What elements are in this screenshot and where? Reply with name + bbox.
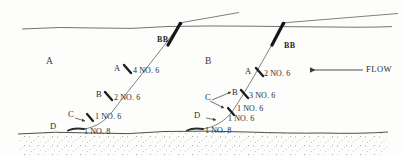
right-bars-a-label: 2 NO. 6	[264, 70, 290, 78]
left-node-a-label: A	[114, 64, 120, 73]
diagram-canvas: A BB A 4 NO. 6 B 2 NO. 6 C 1 NO. 6 D 1 N…	[0, 0, 404, 155]
left-node-d-label: D	[50, 122, 56, 131]
left-bars-b-label: 2 NO. 6	[114, 94, 140, 102]
tether-lines	[182, 13, 398, 23]
water-surface-line	[22, 26, 392, 29]
zone-label-b: B	[205, 57, 211, 67]
seabed-line	[18, 131, 388, 155]
right-node-b-label: B	[232, 88, 238, 97]
left-bb-label: BB	[157, 36, 168, 44]
right-node-d-label: D	[194, 111, 200, 120]
right-node-c-label: C	[205, 93, 211, 102]
left-node-b-label: B	[96, 90, 102, 99]
left-bars-c-label: 1 NO. 6	[95, 113, 121, 121]
left-bars-a-label: 4 NO. 6	[133, 67, 159, 75]
right-node-a-label: A	[245, 67, 251, 76]
right-bb-label: BB	[284, 42, 295, 50]
right-bars-c1-label: 1 NO. 6	[237, 105, 263, 113]
right-bars-c2-label: 1 NO. 6	[228, 115, 254, 123]
left-node-c-label: C	[68, 110, 74, 119]
zone-label-a: A	[46, 57, 53, 67]
flow-label: FLOW	[366, 65, 392, 74]
left-bars-d-label: 1 NO. 8	[84, 128, 110, 136]
diagram-vector-layer	[0, 0, 404, 155]
right-bars-d-label: 1 NO. 8	[205, 127, 231, 135]
right-bars-b-label: 3 NO. 6	[249, 92, 275, 100]
